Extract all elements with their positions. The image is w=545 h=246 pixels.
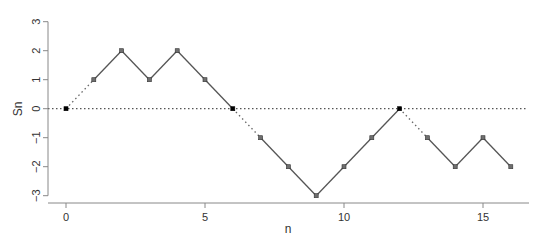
point-marker: [453, 165, 457, 169]
x-tick-label: 10: [338, 211, 350, 223]
solid-segment: [372, 109, 400, 138]
point-marker: [314, 194, 318, 198]
solid-segment: [261, 138, 289, 167]
point-marker: [92, 78, 96, 82]
zero-point-marker: [398, 107, 402, 111]
axes: −3−2−10123051015: [30, 19, 529, 223]
point-marker: [175, 49, 179, 53]
dotted-segment: [66, 80, 94, 109]
point-marker: [370, 136, 374, 140]
y-tick-label: 2: [30, 48, 42, 54]
y-tick-label: −2: [30, 160, 42, 173]
series-lines: [66, 51, 511, 196]
point-marker: [286, 165, 290, 169]
solid-segment: [94, 51, 122, 80]
x-tick-label: 15: [477, 211, 489, 223]
point-marker: [342, 165, 346, 169]
zero-point-marker: [64, 107, 68, 111]
y-tick-label: 3: [30, 19, 42, 25]
solid-segment: [316, 167, 344, 196]
y-tick-label: −1: [30, 131, 42, 144]
solid-segment: [455, 138, 483, 167]
solid-segment: [427, 138, 455, 167]
solid-segment: [344, 138, 372, 167]
point-marker: [120, 49, 124, 53]
x-tick-label: 0: [63, 211, 69, 223]
point-marker: [425, 136, 429, 140]
y-axis-label: Sn: [11, 102, 25, 117]
x-axis-label: n: [285, 222, 292, 236]
random-walk-chart: −3−2−10123051015 n Sn: [0, 0, 545, 246]
solid-segment: [205, 80, 233, 109]
point-marker: [203, 78, 207, 82]
zero-point-marker: [231, 107, 235, 111]
series-points: [64, 49, 513, 198]
solid-segment: [288, 167, 316, 196]
solid-segment: [483, 138, 511, 167]
solid-segment: [149, 51, 177, 80]
y-tick-label: 1: [30, 77, 42, 83]
y-tick-label: −3: [30, 189, 42, 202]
point-marker: [509, 165, 513, 169]
x-tick-label: 5: [202, 211, 208, 223]
solid-segment: [122, 51, 150, 80]
point-marker: [481, 136, 485, 140]
y-tick-label: 0: [30, 106, 42, 112]
dotted-segment: [233, 109, 261, 138]
solid-segment: [177, 51, 205, 80]
point-marker: [259, 136, 263, 140]
dotted-segment: [400, 109, 428, 138]
point-marker: [147, 78, 151, 82]
